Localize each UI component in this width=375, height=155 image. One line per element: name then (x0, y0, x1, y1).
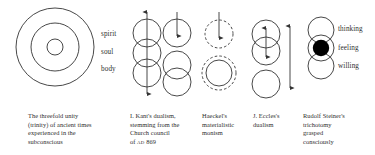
caption-line: Rudolf Steiner's (303, 112, 369, 121)
caption-threefold-unity: The threefold unity (trinity) of ancient… (28, 112, 128, 146)
caption-line: consciously (303, 138, 369, 147)
caption-ad-suffix: 869 (145, 138, 156, 145)
caption-line: The threefold unity (28, 112, 128, 121)
caption-line: I. Kant's dualism, (130, 112, 202, 121)
caption-line: materialistic (202, 121, 250, 130)
eccles-circle-bottom (252, 70, 280, 98)
caption-line: stemming from the (130, 121, 202, 130)
caption-line: trichotomy (303, 121, 369, 130)
concentric-outer-circle (16, 8, 94, 86)
label-spirit: spirit (101, 31, 116, 38)
caption-line: monism (202, 129, 250, 138)
caption-haeckel-monism: Haeckel's materialistic monism (202, 112, 250, 138)
haeckel-group (202, 12, 236, 90)
concentric-circles-group (16, 8, 94, 86)
label-soul: soul (101, 49, 113, 56)
caption-ad-smallcaps: AD (137, 140, 144, 145)
diagram-svg (0, 0, 375, 100)
caption-line: dualism (253, 121, 297, 130)
caption-line: Haeckel's (202, 112, 250, 121)
caption-kant-dualism: I. Kant's dualism, stemming from the Chu… (130, 112, 202, 147)
label-willing: willing (338, 63, 359, 70)
kant-chain-a-group (133, 12, 161, 94)
caption-line: subconscious (28, 138, 128, 147)
figure-root: spirit soul body thinking feeling willin… (0, 0, 375, 155)
eccles-group (252, 20, 290, 98)
steiner-circle-willing (308, 53, 334, 79)
caption-eccles-dualism: J. Eccles's dualism (253, 112, 297, 129)
label-thinking: thinking (338, 26, 363, 33)
caption-line: J. Eccles's (253, 112, 297, 121)
caption-line-ad: of AD 869 (130, 138, 202, 148)
concentric-middle-circle (31, 23, 79, 71)
caption-line: grasped (303, 129, 369, 138)
caption-steiner-trichotomy: Rudolf Steiner's trichotomy grasped cons… (303, 112, 369, 146)
label-feeling: feeling (338, 45, 359, 52)
caption-line: Church council (130, 129, 202, 138)
caption-line: (trinity) of ancient times (28, 121, 128, 130)
haeckel-solid-ring-inner (206, 60, 232, 86)
haeckel-dashed-ring-outer (202, 56, 236, 90)
concentric-inner-circle (47, 39, 63, 55)
steiner-group (308, 17, 334, 79)
label-body: body (101, 66, 116, 73)
kant-b-circle-middle (163, 51, 191, 79)
caption-line: experienced in the (28, 129, 128, 138)
steiner-filled-disc (313, 40, 329, 56)
kant-b-circle-bottom (163, 68, 191, 96)
kant-chain-b-group (163, 12, 191, 96)
